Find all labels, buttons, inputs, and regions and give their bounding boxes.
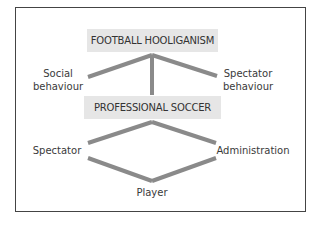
spectator-behaviour-line1: Spectator (223, 67, 273, 80)
connector-soccer-spectator (88, 122, 152, 143)
spectator-label: Spectator (33, 144, 82, 157)
spectator-behaviour-line2: behaviour (223, 80, 273, 93)
connector-soccer-administration (152, 122, 216, 143)
connector-spectator-behaviour (152, 55, 217, 76)
professional-soccer-label: PROFESSIONAL SOCCER (94, 102, 211, 113)
connector-administration-player (152, 158, 216, 181)
social-behaviour-label: Social behaviour (33, 67, 83, 93)
professional-soccer-box: PROFESSIONAL SOCCER (84, 96, 221, 119)
football-hooliganism-label: FOOTBALL HOOLIGANISM (91, 35, 214, 46)
player-label: Player (136, 186, 167, 199)
social-behaviour-line2: behaviour (33, 80, 83, 93)
connector-spectator-player (88, 158, 152, 181)
football-hooliganism-box: FOOTBALL HOOLIGANISM (87, 29, 218, 52)
connector-social-behaviour (88, 55, 152, 77)
social-behaviour-line1: Social (33, 67, 83, 80)
administration-label: Administration (216, 144, 289, 157)
spectator-behaviour-label: Spectator behaviour (223, 67, 273, 93)
